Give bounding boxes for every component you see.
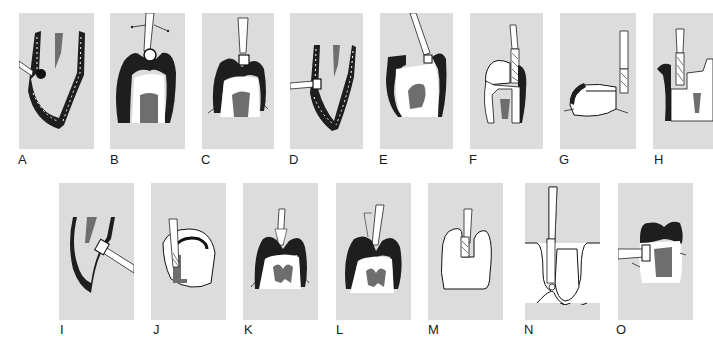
panel-l — [336, 183, 411, 320]
panel-g — [560, 13, 636, 149]
panel-label-i: I — [60, 323, 64, 336]
crown-occlusal-bur-illustration — [560, 13, 636, 149]
molar-cavity-inverted-cone-bur-illustration — [243, 183, 318, 320]
panel-label-h: H — [654, 153, 663, 166]
molar-deep-cavity-bur-illustration — [336, 183, 411, 320]
crown-fissure-bur-illustration — [470, 13, 543, 149]
tooth-section-bur-entry-illustration — [290, 13, 363, 149]
panel-label-c: C — [201, 153, 210, 166]
panel-label-d: D — [289, 153, 298, 166]
panel-f — [470, 13, 543, 149]
panel-label-m: M — [428, 323, 439, 336]
panel-h — [653, 13, 713, 149]
panel-c — [202, 13, 274, 149]
crown-proximal-box-bur-illustration — [151, 183, 226, 320]
panel-label-a: A — [18, 153, 27, 166]
panel-label-o: O — [616, 323, 626, 336]
panel-j — [151, 183, 226, 320]
crown-facial-bur-illustration — [618, 183, 693, 320]
panel-n — [525, 183, 600, 320]
panel-b — [110, 13, 185, 149]
crown-cutting-bur-illustration — [380, 13, 453, 149]
panel-label-j: J — [153, 323, 160, 336]
panel-k — [243, 183, 318, 320]
molar-crown-round-bur-illustration — [202, 13, 274, 149]
interproximal-bur-gingiva-illustration — [525, 183, 600, 320]
crown-class-v-bur-illustration — [428, 183, 503, 320]
molar-crown-bur-illustration — [110, 13, 185, 149]
panel-e — [380, 13, 453, 149]
panel-i — [59, 183, 134, 320]
panel-o — [618, 183, 693, 320]
panel-label-l: L — [336, 323, 343, 336]
crown-shoulder-bur-illustration — [653, 13, 713, 149]
panel-label-k: K — [244, 323, 253, 336]
panel-label-n: N — [524, 323, 533, 336]
panel-label-f: F — [469, 153, 477, 166]
panel-m — [428, 183, 503, 320]
tooth-section-angled-bur-illustration — [59, 183, 134, 320]
panel-label-e: E — [379, 153, 388, 166]
panel-d — [290, 13, 363, 149]
panel-label-g: G — [559, 153, 569, 166]
panel-label-b: B — [110, 153, 119, 166]
tooth-section-bur-side-illustration — [19, 13, 94, 149]
panel-a — [19, 13, 94, 149]
